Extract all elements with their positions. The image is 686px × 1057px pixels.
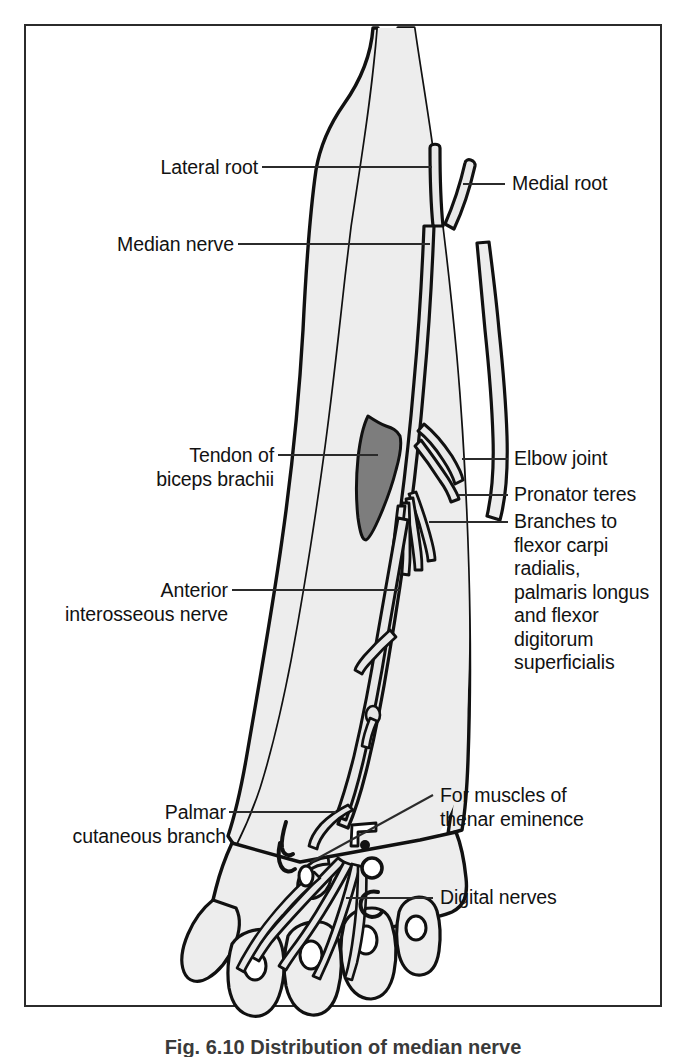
label-lateral-root: Lateral root — [86, 156, 258, 180]
nerve-lateral-root — [430, 144, 443, 226]
label-digital-nerves: Digital nerves — [440, 886, 640, 910]
palm-mark-oval-small — [299, 866, 313, 886]
label-median-nerve: Median nerve — [62, 233, 234, 257]
label-elbow-joint: Elbow joint — [514, 447, 684, 471]
figure-caption: Fig. 6.10 Distribution of median nerve — [0, 1036, 686, 1057]
label-thenar-eminence-muscles: For muscles of thenar eminence — [440, 784, 640, 831]
palm-mark-dot — [360, 840, 370, 850]
fingernail-little — [406, 916, 426, 940]
label-palmar-cutaneous-branch: Palmar cutaneous branch — [24, 801, 226, 848]
nerve-medial-root — [445, 160, 475, 229]
figure-root: Lateral root Median nerve Medial root Te… — [0, 0, 686, 1057]
label-branches-to-flexors: Branches to flexor carpi radialis, palma… — [514, 510, 682, 675]
label-medial-root: Medial root — [512, 172, 682, 196]
medial-bulge-outline — [477, 242, 507, 520]
label-anterior-interosseous-nerve: Anterior interosseous nerve — [18, 579, 228, 626]
label-tendon-biceps-brachii: Tendon of biceps brachii — [60, 444, 274, 491]
label-pronator-teres: Pronator teres — [514, 483, 684, 507]
palm-mark-ring — [362, 858, 382, 878]
